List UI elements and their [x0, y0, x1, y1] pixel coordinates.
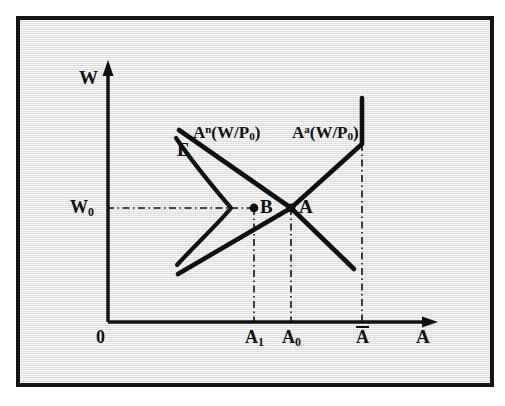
- curve-label-an: An(W/P0): [193, 124, 260, 143]
- y-axis-arrowhead: [103, 60, 114, 76]
- point-label-b: B: [260, 197, 273, 216]
- curve-label-an-base: A: [193, 123, 205, 142]
- tick-label-a1-sub: 1: [258, 335, 264, 349]
- curve-label-aa-close: ): [353, 123, 359, 142]
- tick-label-abar: A: [356, 328, 369, 346]
- curve-label-aa-rest: (W/P: [310, 123, 348, 142]
- tick-label-w0-base: W: [70, 197, 88, 217]
- tick-label-w0: W0: [70, 198, 94, 218]
- figure-root: W A 0 W0 A1 A0 A An(W/P0) Aa(W/P0) E B A: [0, 0, 505, 406]
- x-axis-label: A: [416, 327, 430, 346]
- figure-frame: W A 0 W0 A1 A0 A An(W/P0) Aa(W/P0) E B A: [16, 16, 494, 387]
- curve-label-aa-base: A: [292, 123, 304, 142]
- point-marker-b: [250, 204, 259, 213]
- curve-label-an-close: ): [255, 123, 261, 142]
- y-axis-label: W: [79, 68, 98, 87]
- tick-label-w0-sub: 0: [88, 205, 94, 219]
- tick-label-abar-base: A: [356, 328, 369, 346]
- curve-label-aa: Aa(W/P0): [292, 124, 359, 143]
- tick-label-a1-base: A: [245, 327, 258, 347]
- tick-label-a0: A0: [282, 328, 301, 348]
- origin-label: 0: [96, 328, 105, 346]
- tick-label-a1: A1: [245, 328, 264, 348]
- point-marker-a: [287, 204, 296, 213]
- tick-label-a0-sub: 0: [295, 335, 301, 349]
- curve-label-an-rest: (W/P: [211, 123, 249, 142]
- tick-label-a0-base: A: [282, 327, 295, 347]
- point-label-a: A: [299, 197, 313, 216]
- point-label-e: E: [177, 140, 190, 159]
